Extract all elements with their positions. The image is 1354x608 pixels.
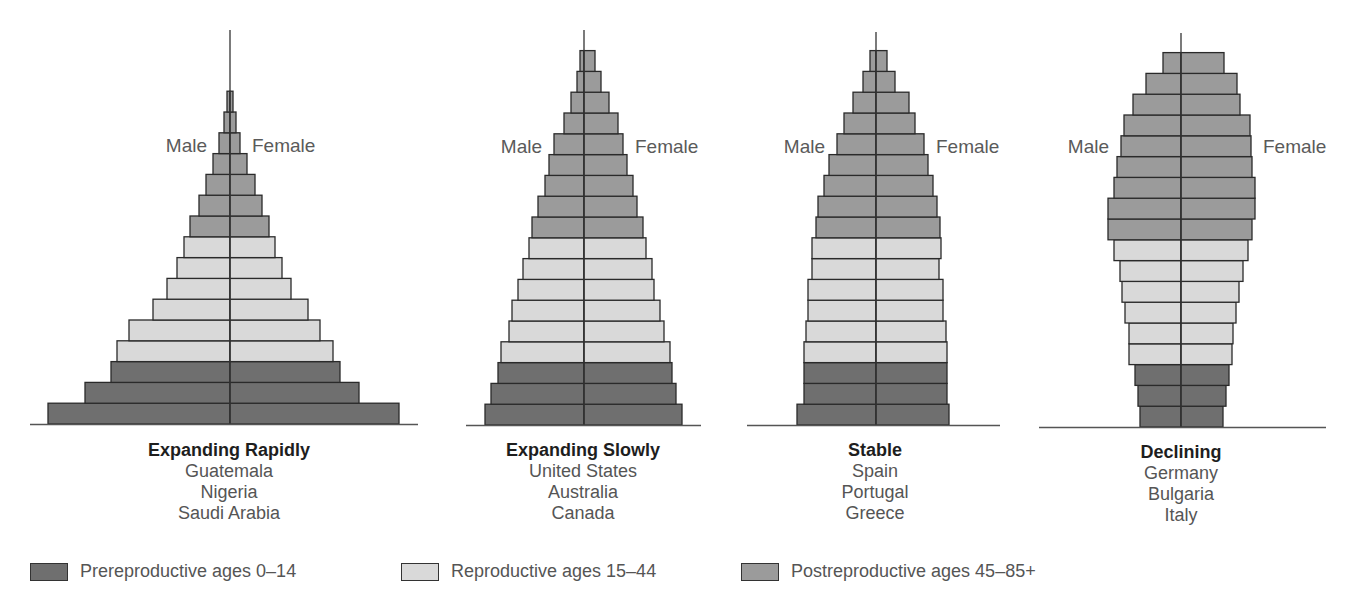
bar-female-post <box>584 51 595 72</box>
bar-male-rep <box>804 342 876 363</box>
bar-female-rep <box>1181 281 1239 302</box>
male-label: Male <box>166 135 207 156</box>
bar-female-rep <box>876 342 947 363</box>
bar-female-rep <box>876 238 941 259</box>
bar-male-pre <box>485 404 584 425</box>
bar-female-pre <box>876 363 947 384</box>
bar-male-rep <box>808 279 876 300</box>
bar-male-pre <box>111 362 230 383</box>
bar-male-post <box>818 196 876 217</box>
legend-label: Prereproductive ages 0–14 <box>80 561 296 582</box>
bar-male-post <box>219 133 230 154</box>
bar-female-post <box>230 174 255 195</box>
bar-female-rep <box>876 279 943 300</box>
legend-label: Reproductive ages 15–44 <box>451 561 656 582</box>
bar-male-rep <box>1122 281 1181 302</box>
bar-male-rep <box>812 259 876 280</box>
bar-female-rep <box>230 320 320 341</box>
legend-item-prereproductive: Prereproductive ages 0–14 <box>30 561 296 582</box>
bar-male-post <box>853 92 876 113</box>
bar-male-rep <box>512 300 584 321</box>
pyramid-title: Expanding Slowly <box>453 440 713 461</box>
bar-male-rep <box>529 238 584 259</box>
bar-male-rep <box>1129 344 1181 365</box>
bar-male-post <box>844 113 876 134</box>
bar-female-rep <box>230 299 308 320</box>
bar-female-rep <box>1181 261 1243 282</box>
bar-female-post <box>876 113 915 134</box>
bar-male-rep <box>808 300 876 321</box>
country-label: Portugal <box>745 482 1005 503</box>
bar-male-rep <box>518 279 584 300</box>
bar-female-post <box>1181 136 1251 157</box>
bar-male-post <box>829 155 876 176</box>
pyramid-title: Expanding Rapidly <box>99 440 359 461</box>
bar-female-post <box>230 216 269 237</box>
bar-female-post <box>876 92 909 113</box>
bar-male-post <box>816 217 876 238</box>
bar-male-post <box>1124 115 1181 136</box>
bar-female-rep <box>584 300 660 321</box>
bar-male-post <box>577 71 584 92</box>
bar-male-post <box>538 196 584 217</box>
bar-male-post <box>554 134 584 155</box>
bar-female-post <box>1181 177 1255 198</box>
bar-male-pre <box>48 403 230 424</box>
bar-male-post <box>199 195 230 216</box>
bar-female-post <box>584 113 618 134</box>
bar-female-post <box>230 112 236 133</box>
bar-female-post <box>876 217 940 238</box>
male-label: Male <box>501 136 542 157</box>
legend-label: Postreproductive ages 45–85+ <box>791 561 1036 582</box>
bar-male-pre <box>498 363 584 384</box>
bar-female-pre <box>230 403 399 424</box>
bar-male-post <box>1121 136 1181 157</box>
country-label: United States <box>453 461 713 482</box>
bar-male-pre <box>1140 406 1181 427</box>
pyramid-expanding-slowly: MaleFemale <box>466 30 701 426</box>
bar-female-rep <box>584 238 646 259</box>
bar-female-pre <box>584 383 676 404</box>
bar-female-post <box>1181 53 1224 74</box>
bar-male-post <box>1108 198 1181 219</box>
bar-male-post <box>532 217 584 238</box>
bar-female-rep <box>230 258 282 279</box>
bar-male-pre <box>85 382 230 403</box>
bar-female-pre <box>230 382 359 403</box>
country-label: Greece <box>745 503 1005 524</box>
country-label: Canada <box>453 503 713 524</box>
bar-female-post <box>876 134 924 155</box>
bar-female-post <box>584 92 609 113</box>
bar-female-pre <box>584 404 682 425</box>
bar-female-rep <box>1181 344 1232 365</box>
bar-female-post <box>230 195 262 216</box>
bar-female-post <box>584 217 643 238</box>
bar-male-rep <box>167 278 230 299</box>
bar-male-post <box>1146 73 1181 94</box>
bar-female-rep <box>230 341 333 362</box>
bar-female-post <box>876 51 887 72</box>
country-label: Italy <box>1051 505 1311 526</box>
caption-declining: Declining Germany Bulgaria Italy <box>1051 442 1311 526</box>
bar-female-pre <box>876 404 949 425</box>
bar-female-pre <box>1181 365 1229 386</box>
bar-female-pre <box>876 383 947 404</box>
bar-female-post <box>876 71 895 92</box>
female-label: Female <box>635 136 698 157</box>
bar-male-rep <box>523 259 584 280</box>
legend-item-reproductive: Reproductive ages 15–44 <box>401 561 656 582</box>
bar-female-post <box>584 71 601 92</box>
bar-male-pre <box>797 404 876 425</box>
bar-male-rep <box>501 342 584 363</box>
bar-male-post <box>1114 177 1181 198</box>
bar-male-post <box>549 155 584 176</box>
bar-female-rep <box>1181 302 1236 323</box>
bar-male-rep <box>1120 261 1181 282</box>
bar-male-post <box>863 71 876 92</box>
legend-swatch-dark <box>30 563 68 581</box>
bar-female-pre <box>1181 385 1226 406</box>
bar-female-post <box>876 155 928 176</box>
caption-expanding-slowly: Expanding Slowly United States Australia… <box>453 440 713 524</box>
bar-female-rep <box>584 321 664 342</box>
bar-male-pre <box>1138 385 1181 406</box>
